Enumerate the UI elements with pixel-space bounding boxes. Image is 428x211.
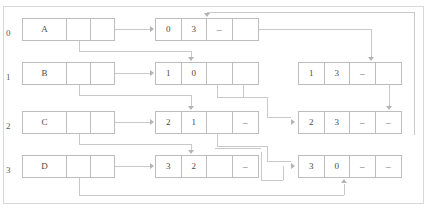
vertex-b-ptr1 bbox=[67, 63, 91, 84]
edge-1-3-ptr2 bbox=[376, 63, 401, 84]
vertex-a-ptr2 bbox=[91, 19, 114, 40]
edge-1-3-v2: 3 bbox=[325, 63, 351, 84]
connector-edge21-ptr3-right bbox=[217, 146, 267, 147]
vertex-node-a: A bbox=[22, 18, 115, 41]
connector-edge10-ptr4-down bbox=[243, 85, 244, 97]
connector-a-ptr2-right bbox=[79, 51, 191, 52]
connector-d-ptr2-down bbox=[79, 178, 80, 195]
connector-d-ptr2-up bbox=[344, 184, 345, 195]
edge-2-3-v1: 2 bbox=[299, 112, 325, 133]
vertex-c-ptr2 bbox=[91, 112, 114, 133]
connector-rightrail-top bbox=[207, 12, 414, 13]
connector-b-ptr2-drop bbox=[191, 95, 192, 106]
connector-junction-a-right bbox=[267, 117, 291, 118]
edge-0-3-v2: 3 bbox=[182, 19, 208, 40]
connector-c-ptr2-right bbox=[79, 144, 191, 145]
arrow-edge03-to-edge13 bbox=[368, 57, 374, 61]
arrow-a-to-edge03 bbox=[150, 26, 154, 32]
edge-1-3-v1: 1 bbox=[299, 63, 325, 84]
row-label-2: 2 bbox=[6, 122, 11, 131]
connector-d-ptr2-right bbox=[79, 195, 344, 196]
connector-edge10-ptr4-right bbox=[243, 97, 267, 98]
edge-2-1-ptr2: – bbox=[233, 112, 258, 133]
vertex-c-ptr1 bbox=[67, 112, 91, 133]
connector-edge21-ptr3-down bbox=[217, 134, 218, 146]
connector-junction-b-down bbox=[267, 146, 268, 161]
vertex-node-c: C bbox=[22, 111, 115, 134]
edge-1-3-ptr1: – bbox=[350, 63, 376, 84]
connector-junction-b-right bbox=[267, 161, 291, 162]
edge-1-0-v1: 1 bbox=[156, 63, 182, 84]
connector-a-to-edge03 bbox=[115, 29, 151, 30]
connector-bus-bottom bbox=[261, 180, 283, 181]
row-label-3: 3 bbox=[6, 166, 11, 175]
connector-bus-riser bbox=[283, 166, 284, 180]
connector-edge03-right bbox=[259, 29, 371, 30]
connector-edge32-top-rail bbox=[215, 148, 261, 149]
connector-edge13-drop bbox=[389, 85, 390, 106]
edge-1-0-ptr1 bbox=[207, 63, 233, 84]
arrow-junction-b-to-edge30 bbox=[291, 163, 295, 169]
edge-2-3-ptr2: – bbox=[376, 112, 401, 133]
vertex-b-ptr2 bbox=[91, 63, 114, 84]
edge-3-0-v2: 0 bbox=[325, 156, 351, 177]
vertex-node-d: D bbox=[22, 155, 115, 178]
arrow-rightrail-to-edge03 bbox=[204, 13, 210, 17]
connector-a-ptr2-down bbox=[79, 41, 80, 51]
arrow-b-to-edge10 bbox=[150, 70, 154, 76]
vertex-d-ptr1 bbox=[67, 156, 91, 177]
edge-node-1-3: 1 3 – bbox=[298, 62, 402, 85]
edge-2-3-v2: 3 bbox=[325, 112, 351, 133]
edge-node-2-3: 2 3 – – bbox=[298, 111, 402, 134]
edge-node-2-1: 2 1 – bbox=[155, 111, 259, 134]
connector-junction-a-down bbox=[267, 97, 268, 117]
arrow-c-to-edge21 bbox=[150, 119, 154, 125]
edge-2-3-ptr1: – bbox=[350, 112, 376, 133]
arrow-junction-a-to-edge23 bbox=[291, 119, 295, 125]
arrow-edge13-to-edge23 bbox=[386, 106, 392, 110]
arrow-b-ptr2-to-edge21 bbox=[188, 106, 194, 110]
edge-1-0-ptr2 bbox=[233, 63, 258, 84]
vertex-a-ptr1 bbox=[67, 19, 91, 40]
connector-b-to-edge10 bbox=[115, 73, 151, 74]
edge-node-3-2: 3 2 – bbox=[155, 155, 259, 178]
connector-c-to-edge21 bbox=[115, 122, 151, 123]
edge-0-3-v1: 0 bbox=[156, 19, 182, 40]
arrow-a-ptr2-to-edge10 bbox=[188, 57, 194, 61]
connector-edge10-ptr3-down bbox=[217, 85, 218, 97]
vertex-d-label: D bbox=[23, 156, 67, 177]
edge-node-0-3: 0 3 – bbox=[155, 18, 259, 41]
connector-b-ptr2-right bbox=[79, 95, 191, 96]
row-label-0: 0 bbox=[6, 29, 11, 38]
vertex-c-label: C bbox=[23, 112, 67, 133]
edge-2-1-v1: 2 bbox=[156, 112, 182, 133]
connector-rightrail-vertical bbox=[414, 12, 415, 135]
connector-b-ptr2-down bbox=[79, 85, 80, 95]
row-label-1: 1 bbox=[6, 73, 11, 82]
edge-3-0-ptr2: – bbox=[376, 156, 401, 177]
arrow-d-to-edge32 bbox=[150, 163, 154, 169]
edge-3-2-ptr2: – bbox=[233, 156, 258, 177]
connector-edge03-drop bbox=[371, 29, 372, 58]
vertex-a-label: A bbox=[23, 19, 67, 40]
edge-1-0-v2: 0 bbox=[182, 63, 208, 84]
connector-d-to-edge32 bbox=[115, 166, 151, 167]
edge-0-3-ptr2 bbox=[233, 19, 258, 40]
edge-3-2-ptr1 bbox=[207, 156, 233, 177]
arrow-c-ptr2-to-edge32 bbox=[188, 150, 194, 154]
edge-3-0-ptr1: – bbox=[350, 156, 376, 177]
connector-bus-vertical bbox=[261, 152, 262, 180]
edge-node-3-0: 3 0 – – bbox=[298, 155, 402, 178]
edge-2-1-v2: 1 bbox=[182, 112, 208, 133]
vertex-d-ptr2 bbox=[91, 156, 114, 177]
connector-c-ptr2-down bbox=[79, 134, 80, 144]
edge-3-0-v1: 3 bbox=[299, 156, 325, 177]
edge-node-1-0: 1 0 bbox=[155, 62, 259, 85]
edge-3-2-v1: 3 bbox=[156, 156, 182, 177]
vertex-b-label: B bbox=[23, 63, 67, 84]
edge-2-1-ptr1 bbox=[207, 112, 233, 133]
arrow-d-ptr2-to-edge30 bbox=[341, 179, 347, 183]
diagram-canvas: 0 1 2 3 A B C D 0 3 – 1 0 2 1 – bbox=[0, 0, 428, 211]
edge-0-3-ptr1: – bbox=[207, 19, 233, 40]
vertex-node-b: B bbox=[22, 62, 115, 85]
